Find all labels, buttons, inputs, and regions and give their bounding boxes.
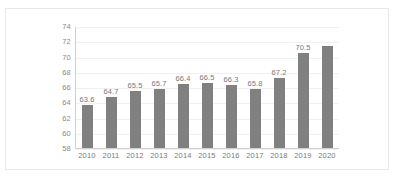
- y-tick-label-66: 66: [51, 84, 71, 92]
- x-tick-label-2011: 2011: [99, 151, 123, 161]
- x-tick-label-2014: 2014: [171, 151, 195, 161]
- x-tick-label-2015: 2015: [195, 151, 219, 161]
- x-axis-tick-labels: 2010201120122013201420152016201720182019…: [75, 151, 339, 165]
- y-axis-tick-labels: 586062646668707274: [49, 27, 71, 149]
- y-tick-label-62: 62: [51, 115, 71, 123]
- chart-frame: 586062646668707274 63.664.765.565.766.46…: [5, 8, 389, 170]
- bar-value-label-2018: 67.2: [264, 69, 294, 77]
- y-tick-label-60: 60: [51, 130, 71, 138]
- bar-2011[interactable]: [106, 97, 117, 148]
- bar-value-label-2019: 70.5: [288, 44, 318, 52]
- bar-2015[interactable]: [202, 83, 213, 148]
- x-tick-label-2020: 2020: [315, 151, 339, 161]
- x-tick-label-2019: 2019: [291, 151, 315, 161]
- y-tick-label-58: 58: [51, 145, 71, 153]
- plot-area: 63.664.765.565.766.466.566.365.867.270.5: [75, 27, 339, 149]
- x-tick-label-2017: 2017: [243, 151, 267, 161]
- bar-slot-2015[interactable]: 66.5: [195, 26, 219, 148]
- bar-2013[interactable]: [154, 89, 165, 148]
- gridline-58: [76, 149, 339, 150]
- y-tick-label-68: 68: [51, 69, 71, 77]
- bar-value-label-2017: 65.8: [240, 80, 270, 88]
- bar-slot-2014[interactable]: 66.4: [171, 26, 195, 148]
- y-tick-label-64: 64: [51, 99, 71, 107]
- y-tick-label-74: 74: [51, 23, 71, 31]
- bar-2014[interactable]: [178, 84, 189, 148]
- y-tick-label-72: 72: [51, 38, 71, 46]
- bar-slot-2019[interactable]: 70.5: [291, 26, 315, 148]
- x-tick-label-2016: 2016: [219, 151, 243, 161]
- x-tick-label-2012: 2012: [123, 151, 147, 161]
- x-tick-label-2010: 2010: [75, 151, 99, 161]
- bar-2019[interactable]: [298, 53, 309, 148]
- bar-2016[interactable]: [226, 85, 237, 148]
- y-tick-label-70: 70: [51, 54, 71, 62]
- bar-slot-2013[interactable]: 65.7: [147, 26, 171, 148]
- bar-2010[interactable]: [82, 105, 93, 148]
- bar-2018[interactable]: [274, 78, 285, 148]
- bar-slot-2017[interactable]: 65.8: [243, 26, 267, 148]
- bar-2012[interactable]: [130, 91, 141, 148]
- bar-2020[interactable]: [322, 46, 333, 148]
- bar-2017[interactable]: [250, 89, 261, 148]
- x-tick-label-2018: 2018: [267, 151, 291, 161]
- x-tick-label-2013: 2013: [147, 151, 171, 161]
- bar-slot-2020[interactable]: [315, 26, 339, 148]
- bar-value-label-2010: 63.6: [72, 96, 102, 104]
